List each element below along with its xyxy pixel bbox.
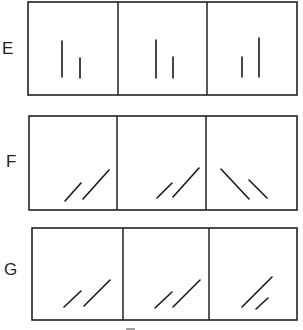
- row-g-panel-3: [242, 277, 272, 309]
- line-segment: [155, 292, 172, 308]
- row-e-panel-3: [242, 38, 259, 77]
- line-segment: [64, 291, 81, 307]
- row-f-panel-1: [65, 170, 109, 201]
- line-segment: [65, 183, 81, 201]
- row-g-panel-2: [155, 280, 200, 308]
- row-f-panel-3: [221, 169, 267, 199]
- line-segment: [173, 168, 199, 197]
- row-f-panel-2: [157, 168, 199, 198]
- line-segment: [242, 277, 272, 307]
- line-segment: [84, 280, 110, 306]
- line-segment: [221, 169, 249, 199]
- row-e-frame: [28, 2, 297, 95]
- line-segment: [173, 280, 200, 307]
- row-f: [29, 116, 297, 210]
- line-segment: [157, 183, 172, 198]
- row-g: [32, 228, 297, 320]
- line-segment: [256, 298, 268, 309]
- row-e-panel-2: [156, 40, 173, 78]
- line-segment: [83, 170, 109, 199]
- row-g-frame: [32, 228, 297, 320]
- line-segment: [249, 180, 267, 198]
- row-e-panel-1: [62, 41, 80, 78]
- row-e: [28, 2, 297, 95]
- row-g-panel-1: [64, 280, 110, 307]
- figure-canvas: [0, 0, 303, 330]
